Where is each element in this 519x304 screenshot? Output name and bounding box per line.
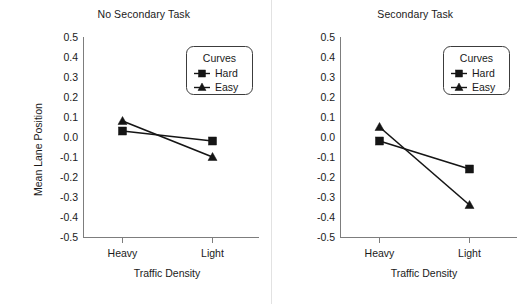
square-marker-icon — [465, 165, 473, 173]
y-tick-label: -0.2 — [316, 171, 334, 183]
y-tick-label: -0.5 — [60, 231, 78, 243]
y-tick-label: 0.3 — [63, 71, 78, 83]
legend: Curves Hard Easy — [187, 47, 253, 95]
y-tick-label: -0.2 — [60, 171, 78, 183]
legend-label-easy: Easy — [215, 81, 239, 93]
triangle-marker-icon — [375, 123, 384, 131]
plot-area-right: 0.5 0.4 0.3 0.2 0.1 0.0 -0.1 -0.2 -0.3 -… — [260, 0, 519, 304]
y-tick-label: 0.1 — [63, 111, 78, 123]
legend-title: Curves — [459, 52, 492, 64]
series-line-hard — [379, 141, 469, 169]
x-tick-label: Light — [458, 247, 481, 259]
legend: Curves Hard Easy — [443, 47, 509, 95]
square-marker-icon — [119, 127, 127, 135]
legend-label-hard: Hard — [472, 67, 495, 79]
y-tick-label: -0.1 — [60, 151, 78, 163]
y-tick-label: 0.4 — [63, 51, 78, 63]
y-tick-label: 0.0 — [63, 131, 78, 143]
panel-no-secondary-task: No Secondary Task Mean Lane Position 0.5… — [0, 0, 260, 304]
y-tick-label: 0.1 — [320, 111, 335, 123]
y-tick-label: -0.4 — [60, 211, 78, 223]
plot-area-left: 0.5 0.4 0.3 0.2 0.1 0.0 -0.1 -0.2 -0.3 -… — [0, 0, 259, 304]
x-tick-label: Heavy — [108, 247, 139, 259]
legend-title: Curves — [203, 52, 236, 64]
triangle-marker-icon — [118, 117, 127, 125]
y-tick-label: 0.5 — [63, 31, 78, 43]
square-marker-icon — [209, 137, 217, 145]
y-tick-label: -0.1 — [316, 151, 334, 163]
y-tick-label: -0.3 — [316, 191, 334, 203]
y-tick-label: 0.5 — [320, 31, 335, 43]
y-tick-label: 0.3 — [320, 71, 335, 83]
y-tick-label: -0.5 — [316, 231, 334, 243]
legend-label-hard: Hard — [215, 67, 238, 79]
panel-secondary-task: Secondary Task 0.5 0.4 0.3 0.2 0.1 0.0 -… — [260, 0, 519, 304]
y-tick-label: -0.3 — [60, 191, 78, 203]
y-tick-label: 0.0 — [320, 131, 335, 143]
square-marker-icon — [375, 137, 383, 145]
series-line-easy — [379, 127, 469, 205]
y-tick-label: 0.4 — [320, 51, 335, 63]
legend-label-easy: Easy — [472, 81, 496, 93]
square-marker-icon — [199, 70, 206, 77]
x-axis-label: Traffic Density — [134, 267, 201, 279]
x-tick-label: Light — [201, 247, 224, 259]
y-tick-label: 0.2 — [63, 91, 78, 103]
square-marker-icon — [455, 70, 462, 77]
panel-divider — [271, 0, 272, 304]
x-tick-label: Heavy — [364, 247, 395, 259]
y-tick-label: -0.4 — [316, 211, 334, 223]
y-tick-label: 0.2 — [320, 91, 335, 103]
x-axis-label: Traffic Density — [390, 267, 457, 279]
figure-container: No Secondary Task Mean Lane Position 0.5… — [0, 0, 519, 304]
